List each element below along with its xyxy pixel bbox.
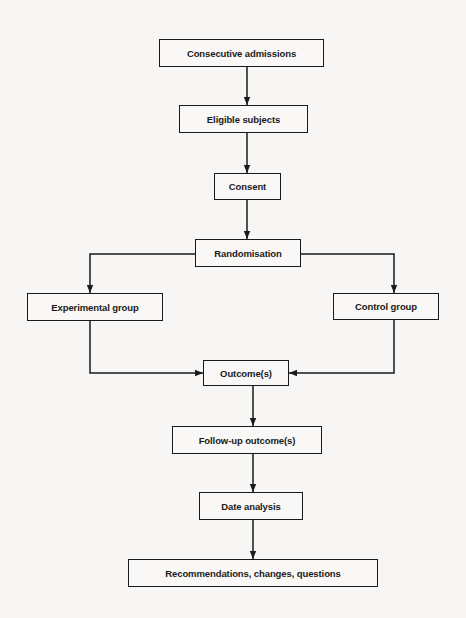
edge-randomisation-experimental [90, 254, 195, 293]
node-label: Control group [355, 301, 417, 312]
node-label: Follow-up outcome(s) [199, 435, 296, 446]
node-experimental-group: Experimental group [27, 293, 163, 321]
node-label: Outcome(s) [220, 368, 272, 379]
edge-randomisation-control [301, 254, 394, 293]
edge-experimental-outcomes [90, 321, 203, 373]
node-eligible-subjects: Eligible subjects [179, 105, 308, 133]
node-label: Consent [229, 181, 266, 192]
node-label: Randomisation [214, 248, 281, 259]
node-follow-up-outcomes: Follow-up outcome(s) [172, 426, 322, 454]
node-outcomes: Outcome(s) [203, 360, 289, 386]
node-label: Recommendations, changes, questions [165, 568, 340, 579]
node-label: Eligible subjects [207, 114, 280, 125]
node-date-analysis: Date analysis [199, 492, 303, 520]
flowchart-canvas: Consecutive admissions Eligible subjects… [0, 0, 466, 618]
node-consent: Consent [214, 173, 281, 200]
node-control-group: Control group [333, 293, 439, 320]
node-label: Date analysis [221, 501, 280, 512]
node-recommendations: Recommendations, changes, questions [128, 559, 378, 587]
node-label: Experimental group [51, 302, 138, 313]
node-randomisation: Randomisation [195, 239, 301, 267]
edge-control-outcomes [289, 320, 394, 373]
node-consecutive-admissions: Consecutive admissions [159, 39, 324, 67]
node-label: Consecutive admissions [187, 48, 296, 59]
